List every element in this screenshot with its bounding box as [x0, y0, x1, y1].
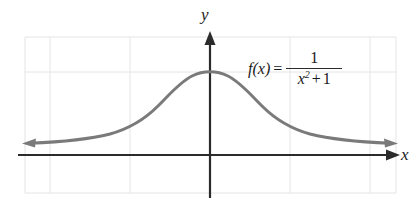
denominator-variable: x [298, 70, 305, 87]
y-axis-label: y [201, 6, 209, 23]
function-graph-figure: y x f(x) = 1 x2+1 [0, 0, 420, 204]
equals-sign: = [273, 61, 282, 77]
fraction: 1 x2+1 [286, 50, 342, 88]
denominator-exponent: 2 [305, 69, 310, 80]
denominator-constant: 1 [323, 70, 331, 87]
x-axis-label: x [401, 146, 409, 163]
plot-canvas [0, 0, 420, 204]
y-axis [205, 31, 216, 198]
fraction-denominator: x2+1 [294, 69, 335, 88]
function-equation-label: f(x) = 1 x2+1 [248, 50, 342, 88]
function-name: f(x) [248, 61, 270, 77]
fraction-numerator: 1 [303, 50, 325, 68]
denominator-plus-sign: + [312, 70, 321, 87]
curve-left-arrowhead [22, 139, 36, 148]
